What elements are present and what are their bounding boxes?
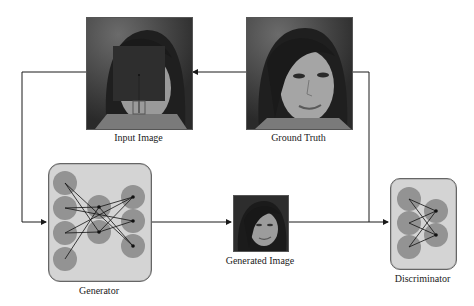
discriminator-block (390, 178, 457, 270)
input-image-label: Input Image (86, 132, 191, 143)
generator-block (48, 163, 152, 282)
input-image (86, 17, 193, 130)
face-photo-generated (234, 196, 288, 251)
ground-truth-label: Ground Truth (246, 132, 351, 143)
generator-network-icon (49, 164, 151, 281)
discriminator-network-icon (391, 179, 456, 269)
line-gt-to-discriminator (351, 72, 369, 222)
face-photo (247, 18, 352, 129)
face-photo-occluded (87, 18, 192, 129)
generated-image (233, 195, 289, 252)
ground-truth-image (246, 17, 353, 130)
generator-label: Generator (48, 285, 150, 296)
discriminator-label: Discriminator (380, 273, 465, 284)
generated-image-label: Generated Image (213, 255, 307, 266)
